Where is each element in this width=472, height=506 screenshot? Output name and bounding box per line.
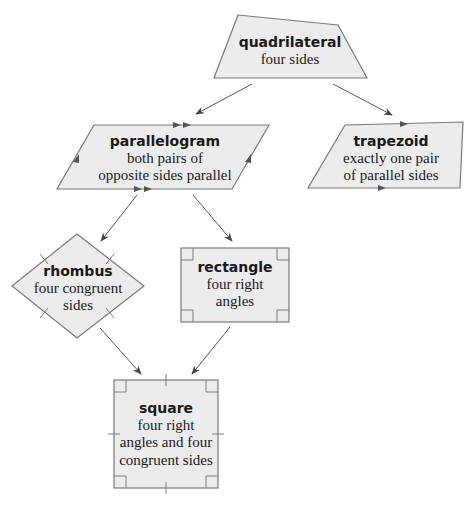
node-description: both pairs of xyxy=(70,150,260,168)
node-description: exactly one pair xyxy=(320,150,462,168)
arrow-parallelogram-to-rhombus xyxy=(101,195,137,241)
node-description: four sides xyxy=(215,51,365,69)
node-parallelogram: parallelogram both pairs of opposite sid… xyxy=(70,133,260,185)
arrow-quadrilateral-to-parallelogram xyxy=(196,84,252,114)
node-description: of parallel sides xyxy=(320,167,462,185)
node-rhombus: rhombus four congruent sides xyxy=(12,263,144,315)
node-description: four right xyxy=(181,276,289,294)
node-trapezoid: trapezoid exactly one pair of parallel s… xyxy=(320,133,462,185)
node-title: trapezoid xyxy=(320,133,462,150)
node-square: square four right angles and four congru… xyxy=(114,400,218,470)
arrow-quadrilateral-to-trapezoid xyxy=(333,84,392,115)
node-description: angles and four xyxy=(114,434,218,452)
node-quadrilateral: quadrilateral four sides xyxy=(215,34,365,68)
arrow-rhombus-to-square xyxy=(100,328,141,374)
node-title: rectangle xyxy=(181,259,289,276)
arrow-parallelogram-to-rectangle xyxy=(193,195,232,241)
node-title: parallelogram xyxy=(70,133,260,150)
arrow-rectangle-to-square xyxy=(192,327,230,374)
quadrilateral-hierarchy-diagram xyxy=(0,0,472,506)
node-description: sides xyxy=(12,297,144,315)
node-description: congruent sides xyxy=(114,452,218,470)
node-title: rhombus xyxy=(12,263,144,280)
node-rectangle: rectangle four right angles xyxy=(181,259,289,311)
node-description: opposite sides parallel xyxy=(70,167,260,185)
node-description: four congruent xyxy=(12,280,144,298)
node-description: angles xyxy=(181,293,289,311)
node-title: square xyxy=(114,400,218,417)
node-description: four right xyxy=(114,417,218,435)
node-title: quadrilateral xyxy=(215,34,365,51)
